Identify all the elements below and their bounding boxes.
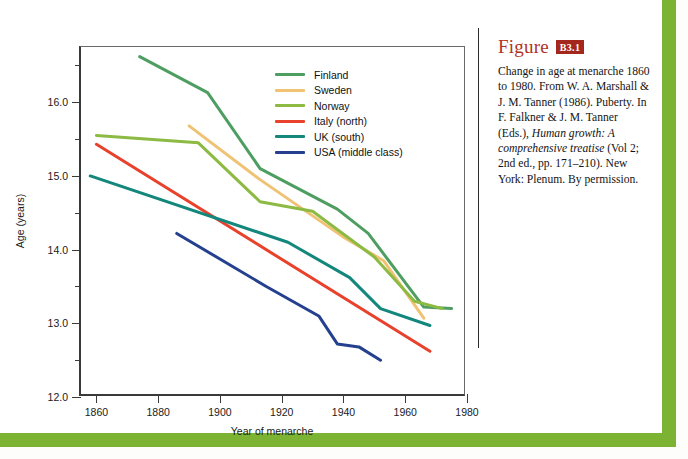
x-tick-label: 1940 (332, 406, 355, 418)
legend-swatch-icon (275, 120, 305, 123)
legend-label: Italy (north) (314, 116, 367, 127)
y-tick-major (72, 250, 81, 251)
x-tick (220, 394, 221, 403)
legend-label: Finland (314, 70, 348, 81)
y-tick-minor (75, 213, 81, 214)
legend-item[interactable]: Norway (275, 98, 403, 114)
y-tick-minor (75, 139, 81, 140)
x-tick (343, 394, 344, 403)
figure-page: 12.013.014.015.016.018601880190019201940… (0, 0, 688, 459)
legend-swatch-icon (275, 151, 305, 154)
figure-caption: Figure B3.1 Change in age at menarche 18… (498, 36, 650, 187)
x-tick-label: 1900 (208, 406, 231, 418)
x-tick-label: 1980 (455, 406, 478, 418)
y-tick-label: 16.0 (48, 96, 68, 108)
plot-area: 12.013.014.015.016.018601880190019201940… (79, 46, 465, 396)
y-tick-label: 14.0 (48, 244, 68, 256)
y-tick-label: 12.0 (48, 391, 68, 403)
y-tick-major (72, 176, 81, 177)
x-tick (158, 394, 159, 403)
line-chart: 12.013.014.015.016.018601880190019201940… (0, 0, 478, 459)
series-lines (81, 47, 467, 397)
y-tick-label: 13.0 (48, 317, 68, 329)
green-frame-right (662, 0, 676, 447)
series-line (90, 176, 430, 326)
y-tick-label: 15.0 (48, 170, 68, 182)
x-tick (467, 394, 468, 403)
green-frame-corner (662, 433, 676, 447)
y-axis-title: Age (years) (14, 194, 26, 248)
legend-item[interactable]: Italy (north) (275, 114, 403, 130)
y-tick-major (72, 397, 81, 398)
caption-divider (478, 28, 479, 348)
x-tick (282, 394, 283, 403)
y-tick-minor (75, 65, 81, 66)
legend-label: UK (south) (314, 132, 364, 143)
legend-swatch-icon (275, 104, 305, 107)
series-line (177, 233, 381, 360)
legend-swatch-icon (275, 135, 305, 138)
x-axis-title: Year of menarche (231, 425, 314, 437)
legend-item[interactable]: UK (south) (275, 129, 403, 145)
legend-label: USA (middle class) (314, 147, 403, 158)
chart-legend: FinlandSwedenNorwayItaly (north)UK (sout… (275, 67, 403, 160)
legend-swatch-icon (275, 89, 305, 92)
legend-item[interactable]: USA (middle class) (275, 145, 403, 161)
caption-text: Change in age at menarche 1860 to 1980. … (498, 64, 650, 187)
legend-swatch-icon (275, 73, 305, 76)
x-tick-label: 1860 (85, 406, 108, 418)
x-tick-label: 1920 (270, 406, 293, 418)
x-tick-label: 1960 (394, 406, 417, 418)
legend-item[interactable]: Sweden (275, 83, 403, 99)
legend-item[interactable]: Finland (275, 67, 403, 83)
series-line (96, 135, 442, 308)
x-tick (96, 394, 97, 403)
y-tick-minor (75, 286, 81, 287)
y-tick-major (72, 102, 81, 103)
figure-word: Figure (498, 36, 549, 58)
legend-label: Sweden (314, 85, 352, 96)
x-tick-label: 1880 (147, 406, 170, 418)
figure-heading: Figure B3.1 (498, 36, 650, 58)
y-tick-minor (75, 360, 81, 361)
x-tick (405, 394, 406, 403)
figure-number-badge: B3.1 (556, 40, 584, 54)
legend-label: Norway (314, 101, 350, 112)
y-tick-major (72, 323, 81, 324)
